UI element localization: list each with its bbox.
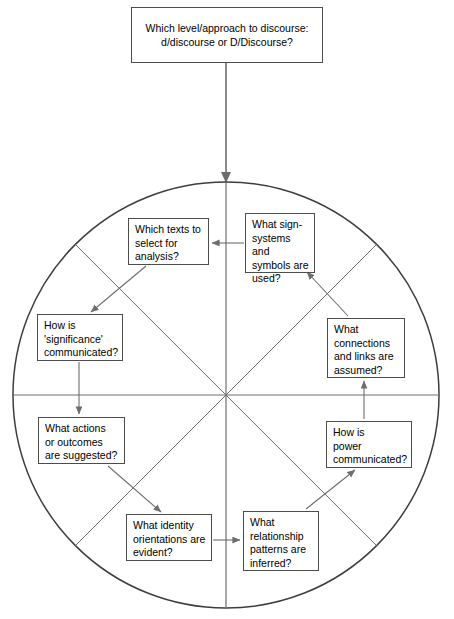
discourse-framework-diagram: What sign- systems and symbols are used?… [0,0,454,619]
how-power-box: How is power communicated? [326,421,412,468]
what-actions-box: What actions or outcomes are suggested? [38,417,125,464]
what-sign-systems-box: What sign- systems and symbols are used? [245,213,315,273]
which-texts-box: Which texts to select for analysis? [128,218,209,265]
what-identity-box: What identity orientations are evident? [126,514,212,561]
how-significance-box: How is 'significance' communicated? [37,314,123,361]
flow-arrow-relationships-to-power [306,470,355,509]
flow-arrows [79,243,364,540]
title-box: Which level/approach to discourse: d/dis… [131,7,323,63]
circle-spokes [13,182,439,608]
what-relationship-box: What relationship patterns are inferred? [243,511,319,571]
circle-group [13,182,439,608]
flow-arrow-texts-to-significance [91,266,146,312]
what-connections-box: What connections and links are assumed? [327,318,405,378]
diagram-vector-layer [0,0,454,619]
